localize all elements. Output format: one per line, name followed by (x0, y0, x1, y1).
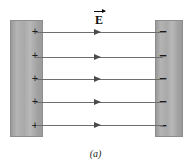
field-line (36, 57, 163, 58)
field-line (36, 125, 163, 126)
field-line (36, 79, 163, 80)
field-symbol: E (88, 14, 110, 26)
vector-arrow-icon (94, 9, 105, 14)
figure-caption: (a) (0, 148, 191, 159)
field-line (36, 102, 163, 103)
arrow-right-icon (94, 99, 101, 105)
arrow-right-icon (94, 29, 101, 35)
capacitor-field-figure: + + + + + − − − − − E (a) (0, 0, 191, 168)
field-line (36, 32, 163, 33)
electric-field-label: E (88, 9, 110, 26)
arrow-right-icon (94, 122, 101, 128)
arrow-right-icon (94, 76, 101, 82)
arrow-right-icon (94, 54, 101, 60)
